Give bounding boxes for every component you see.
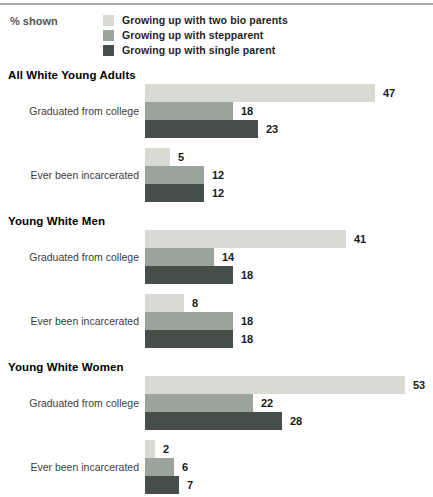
bar-stepparent <box>145 394 253 412</box>
bar-row: 8 <box>145 294 433 312</box>
section-young-white-men: Young White MenGraduated from college411… <box>0 215 433 348</box>
bar-single-parent <box>145 330 233 348</box>
legend-item-growing-up-with-stepparent: Growing up with stepparent <box>103 29 288 41</box>
bar-single-parent <box>145 120 258 138</box>
bar-value-label: 12 <box>212 187 224 199</box>
bars-stack: 411418 <box>145 230 433 284</box>
bar-row: 47 <box>145 84 433 102</box>
bars-stack: 267 <box>145 440 433 494</box>
bar-value-label: 6 <box>182 461 188 473</box>
bar-value-label: 7 <box>187 479 193 491</box>
section-young-white-women: Young White WomenGraduated from college5… <box>0 361 433 494</box>
bar-two-bio-parents <box>145 376 405 394</box>
section-title: All White Young Adults <box>0 69 433 81</box>
bar-row: 14 <box>145 248 433 266</box>
bars-stack: 51212 <box>145 148 433 202</box>
bar-stepparent <box>145 312 233 330</box>
section-all-white-young-adults: All White Young AdultsGraduated from col… <box>0 69 433 202</box>
bar-row: 22 <box>145 394 433 412</box>
bar-row: 53 <box>145 376 433 394</box>
bar-single-parent <box>145 476 179 494</box>
legend-swatch-icon <box>103 45 114 56</box>
legend-swatch-icon <box>103 15 114 26</box>
bar-two-bio-parents <box>145 84 375 102</box>
bar-two-bio-parents <box>145 440 155 458</box>
bar-group-graduated-from-college: Graduated from college471823 <box>0 84 433 138</box>
bar-single-parent <box>145 266 233 284</box>
bars-stack: 471823 <box>145 84 433 138</box>
group-label: Ever been incarcerated <box>0 315 145 327</box>
bars-stack: 81818 <box>145 294 433 348</box>
bar-stepparent <box>145 248 214 266</box>
bar-group-ever-been-incarcerated: Ever been incarcerated267 <box>0 440 433 494</box>
bar-value-label: 14 <box>222 251 234 263</box>
chart-page: % shown Growing up with two bio parentsG… <box>0 3 433 497</box>
group-label: Ever been incarcerated <box>0 461 145 473</box>
bar-row: 12 <box>145 166 433 184</box>
bar-row: 12 <box>145 184 433 202</box>
bar-chart: All White Young AdultsGraduated from col… <box>0 69 433 494</box>
legend-item-growing-up-with-two-bio-parents: Growing up with two bio parents <box>103 14 288 26</box>
bar-row: 18 <box>145 266 433 284</box>
legend-swatch-icon <box>103 30 114 41</box>
bar-group-graduated-from-college: Graduated from college532228 <box>0 376 433 430</box>
bar-row: 7 <box>145 476 433 494</box>
bars-stack: 532228 <box>145 376 433 430</box>
bar-value-label: 47 <box>383 87 395 99</box>
bar-value-label: 18 <box>241 315 253 327</box>
bar-value-label: 12 <box>212 169 224 181</box>
section-title: Young White Women <box>0 361 433 373</box>
section-title: Young White Men <box>0 215 433 227</box>
group-label: Graduated from college <box>0 397 145 409</box>
bar-stepparent <box>145 102 233 120</box>
percent-shown-label: % shown <box>10 14 103 27</box>
bar-value-label: 23 <box>266 123 278 135</box>
bar-group-ever-been-incarcerated: Ever been incarcerated81818 <box>0 294 433 348</box>
bar-value-label: 18 <box>241 333 253 345</box>
bar-two-bio-parents <box>145 148 170 166</box>
bar-row: 6 <box>145 458 433 476</box>
bar-row: 41 <box>145 230 433 248</box>
bar-value-label: 2 <box>163 443 169 455</box>
bar-single-parent <box>145 184 204 202</box>
bar-two-bio-parents <box>145 294 184 312</box>
legend: Growing up with two bio parentsGrowing u… <box>103 14 288 56</box>
bar-row: 18 <box>145 330 433 348</box>
bar-value-label: 41 <box>354 233 366 245</box>
bar-value-label: 18 <box>241 105 253 117</box>
legend-item-growing-up-with-single-parent: Growing up with single parent <box>103 44 288 56</box>
legend-label: Growing up with stepparent <box>122 29 263 41</box>
bar-group-graduated-from-college: Graduated from college411418 <box>0 230 433 284</box>
group-label: Graduated from college <box>0 251 145 263</box>
bar-stepparent <box>145 458 174 476</box>
bar-row: 18 <box>145 102 433 120</box>
bar-row: 28 <box>145 412 433 430</box>
bar-value-label: 53 <box>413 379 425 391</box>
bar-row: 5 <box>145 148 433 166</box>
bar-value-label: 28 <box>290 415 302 427</box>
bar-value-label: 18 <box>241 269 253 281</box>
bar-value-label: 5 <box>178 151 184 163</box>
bar-value-label: 22 <box>261 397 273 409</box>
bar-row: 18 <box>145 312 433 330</box>
bar-single-parent <box>145 412 282 430</box>
bar-group-ever-been-incarcerated: Ever been incarcerated51212 <box>0 148 433 202</box>
bar-row: 2 <box>145 440 433 458</box>
bar-two-bio-parents <box>145 230 346 248</box>
group-label: Ever been incarcerated <box>0 169 145 181</box>
group-label: Graduated from college <box>0 105 145 117</box>
chart-header: % shown Growing up with two bio parentsG… <box>0 5 433 56</box>
legend-label: Growing up with two bio parents <box>122 14 288 26</box>
bar-stepparent <box>145 166 204 184</box>
legend-label: Growing up with single parent <box>122 44 275 56</box>
bar-value-label: 8 <box>192 297 198 309</box>
bar-row: 23 <box>145 120 433 138</box>
